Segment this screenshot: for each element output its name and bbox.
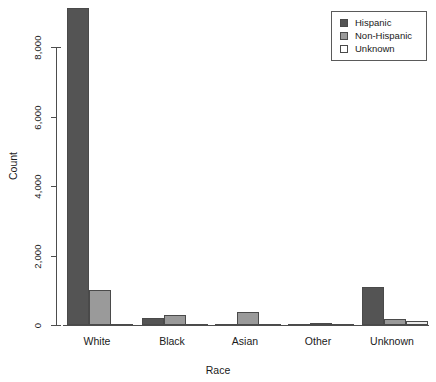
bar-black-hispanic	[142, 318, 164, 325]
legend-item-unknown: Unknown	[340, 43, 420, 55]
legend-label-unknown: Unknown	[355, 44, 395, 54]
legend-item-hispanic: Hispanic	[340, 17, 420, 29]
legend-label-non-hispanic: Non-Hispanic	[355, 31, 412, 41]
legend-swatch-non-hispanic	[340, 32, 348, 40]
x-cat-label-black: Black	[159, 335, 185, 347]
legend-item-non-hispanic: Non-Hispanic	[340, 30, 420, 42]
bar-white-non-hispanic	[89, 290, 111, 325]
legend-swatch-unknown	[340, 45, 348, 53]
x-axis-title: Race	[0, 364, 436, 376]
x-axis-line	[63, 325, 429, 326]
bar-black-non-hispanic	[164, 315, 186, 325]
legend: Hispanic Non-Hispanic Unknown	[331, 11, 427, 61]
bar-unknown-hispanic	[362, 287, 384, 325]
legend-label-hispanic: Hispanic	[355, 18, 391, 28]
x-cat-label-white: White	[84, 335, 111, 347]
bar-white-hispanic	[67, 8, 89, 325]
x-cat-label-asian: Asian	[232, 335, 258, 347]
x-cat-label-unknown: Unknown	[370, 335, 414, 347]
bar-chart-figure: 8,000 6,000 4,000 2,000 0 Count White Bl…	[0, 0, 436, 382]
legend-swatch-hispanic	[340, 19, 348, 27]
x-cat-label-other: Other	[305, 335, 331, 347]
bar-asian-non-hispanic	[237, 312, 259, 325]
